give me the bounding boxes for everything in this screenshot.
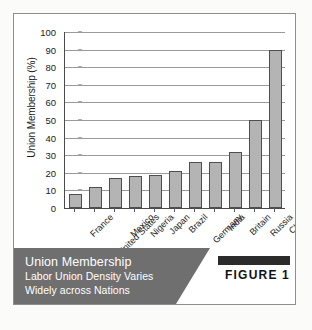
chart-plot-region: Union Membership (%) 0102030405060708090… [14, 14, 296, 264]
figure-container: Union Membership (%) 0102030405060708090… [13, 13, 296, 305]
caption-subtitle-line-1: Labor Union Density Varies [25, 270, 153, 284]
y-axis-tick-label: 10 [30, 185, 56, 196]
bar [209, 162, 222, 208]
x-axis-tick-label: Brazil [187, 212, 210, 235]
y-axis-tick-label: 40 [30, 132, 56, 143]
bar [129, 176, 142, 208]
figure-caption-banner: Union Membership Labor Union Density Var… [14, 248, 296, 304]
bar [249, 120, 262, 208]
chart-axes [64, 32, 285, 209]
x-axis-tick-label: India [226, 212, 247, 233]
y-axis-tick-label: 90 [30, 44, 56, 55]
x-axis-tick-label: France [88, 212, 115, 239]
bar [109, 178, 122, 208]
bar [89, 187, 102, 208]
caption-subtitle-line-2: Widely across Nations [25, 284, 153, 298]
caption-title: Union Membership [25, 254, 153, 270]
bar [229, 152, 242, 208]
y-axis-tick-labels: 0102030405060708090100 [32, 32, 60, 208]
y-axis-tick-label: 70 [30, 79, 56, 90]
bar-series [65, 32, 285, 208]
y-axis-tick-label: 80 [30, 62, 56, 73]
y-axis-tick-label: 20 [30, 167, 56, 178]
badge-rule [218, 256, 290, 265]
y-axis-tick-label: 50 [30, 115, 56, 126]
bar [169, 171, 182, 208]
y-axis-tick-label: 100 [30, 27, 56, 38]
caption-text-block: Union Membership Labor Union Density Var… [25, 254, 153, 297]
bar [69, 194, 82, 208]
bar [269, 50, 282, 208]
x-axis-tick-label: Britain [247, 212, 272, 237]
y-axis-tick-label: 60 [30, 97, 56, 108]
y-axis-tick-label: 0 [30, 203, 56, 214]
y-axis-tick-label: 30 [30, 150, 56, 161]
bar [149, 175, 162, 208]
figure-number-badge: FIGURE 1 [212, 256, 290, 282]
figure-number-label: FIGURE 1 [212, 268, 290, 282]
bar [189, 162, 202, 208]
